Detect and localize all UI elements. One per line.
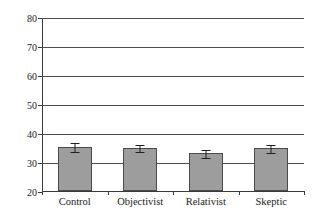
error-bar-cap-bottom — [70, 152, 79, 153]
bar — [58, 147, 92, 191]
gridline — [42, 134, 304, 135]
error-bar-cap-bottom — [267, 153, 276, 154]
error-bar — [200, 150, 212, 159]
error-bar — [69, 143, 81, 152]
bar — [123, 148, 157, 191]
x-tick-mark — [304, 191, 305, 195]
error-bar-cap-top — [136, 145, 145, 146]
error-bar-cap-bottom — [201, 158, 210, 159]
gridline — [42, 47, 304, 48]
error-bar-cap-top — [201, 150, 210, 151]
y-tick-mark — [38, 76, 42, 77]
x-tick-mark — [42, 191, 43, 195]
y-tick-mark — [38, 105, 42, 106]
gridline — [42, 105, 304, 106]
y-tick-mark — [38, 18, 42, 19]
error-bar — [265, 145, 277, 154]
error-bar — [134, 145, 146, 153]
x-tick-label: Skeptic — [256, 196, 288, 207]
y-tick-label: 60 — [27, 71, 37, 82]
x-tick-mark — [239, 191, 240, 195]
bar — [254, 148, 288, 191]
y-tick-label: 80 — [27, 13, 37, 24]
y-tick-mark — [38, 134, 42, 135]
gridline — [42, 76, 304, 77]
y-tick-mark — [38, 163, 42, 164]
bar-chart-figure: Mean State Anxiety 20304050607080 Contro… — [0, 0, 322, 220]
x-tick-label: Objectivist — [117, 196, 163, 207]
error-bar-cap-top — [70, 143, 79, 144]
x-tick-mark — [173, 191, 174, 195]
y-tick-label: 40 — [27, 129, 37, 140]
error-bar-cap-top — [267, 145, 276, 146]
plot-area: 20304050607080 ControlObjectivistRelativ… — [42, 18, 304, 192]
error-bar-cap-bottom — [136, 152, 145, 153]
y-tick-label: 50 — [27, 100, 37, 111]
x-tick-mark — [108, 191, 109, 195]
x-tick-label: Control — [59, 196, 91, 207]
gridline — [42, 18, 304, 19]
y-tick-label: 20 — [27, 187, 37, 198]
y-tick-mark — [38, 47, 42, 48]
y-tick-label: 30 — [27, 158, 37, 169]
x-tick-label: Relativist — [186, 196, 226, 207]
bar — [189, 153, 223, 191]
y-tick-label: 70 — [27, 42, 37, 53]
